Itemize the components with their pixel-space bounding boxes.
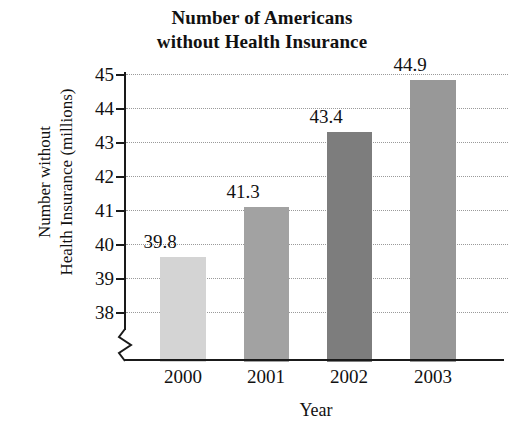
bar-2000 bbox=[160, 257, 206, 362]
bar-chart: Number of Americans without Health Insur… bbox=[0, 0, 524, 441]
axis-break-icon bbox=[116, 328, 136, 362]
bar-value-2001: 41.3 bbox=[213, 182, 273, 201]
x-tick-label-2003: 2003 bbox=[397, 366, 469, 388]
y-tick-label-42: 42 bbox=[78, 167, 114, 186]
x-axis-line bbox=[124, 359, 504, 361]
bar-value-2000: 39.8 bbox=[130, 232, 190, 251]
y-tick-label-45: 45 bbox=[78, 65, 114, 84]
y-tick-label-39: 39 bbox=[78, 269, 114, 288]
bar-value-2003: 44.9 bbox=[380, 55, 440, 74]
x-tick-label-2002: 2002 bbox=[313, 366, 385, 388]
bar-2003 bbox=[410, 80, 456, 362]
y-tick-label-41: 41 bbox=[78, 201, 114, 220]
x-tick-label-2000: 2000 bbox=[147, 366, 219, 388]
bar-2001 bbox=[244, 207, 289, 362]
bar-2002 bbox=[327, 132, 372, 362]
gridline-45 bbox=[126, 74, 508, 75]
y-tick-label-40: 40 bbox=[78, 235, 114, 254]
y-axis-line bbox=[124, 72, 126, 330]
y-axis-title-line-1: Number without bbox=[34, 52, 56, 312]
y-tick-label-44: 44 bbox=[78, 99, 114, 118]
x-axis-title: Year bbox=[126, 400, 506, 420]
x-tick-label-2001: 2001 bbox=[230, 366, 302, 388]
bar-value-2002: 43.4 bbox=[296, 107, 356, 126]
y-tick-label-38: 38 bbox=[78, 303, 114, 322]
y-tick-label-43: 43 bbox=[78, 133, 114, 152]
y-tick-labels: 45 44 43 42 41 40 39 38 bbox=[72, 0, 114, 441]
